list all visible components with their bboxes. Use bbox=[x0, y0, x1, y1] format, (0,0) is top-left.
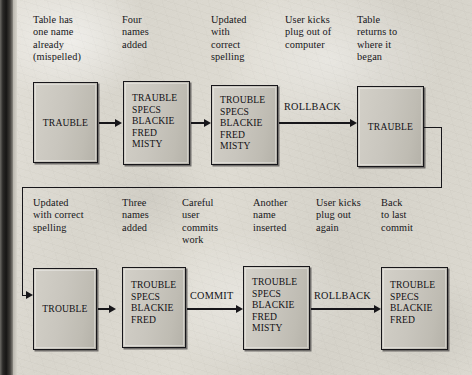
caption-bottom-4: Another name inserted bbox=[253, 197, 315, 234]
table-box-bottom-3: TROUBLE SPECS BLACKIE FRED MISTY bbox=[243, 266, 310, 350]
loopback-segment-down-right bbox=[441, 127, 442, 188]
arrow-top-3-shaft bbox=[279, 122, 351, 124]
loopback-arrow-head bbox=[26, 291, 33, 299]
caption-top-1: Table has one name already (mispelled) bbox=[33, 14, 111, 64]
arrow-top-1-head bbox=[115, 119, 122, 127]
caption-top-4: User kicks plug out of computer bbox=[285, 14, 355, 51]
operation-label-bottom-commit: COMMIT bbox=[190, 290, 233, 301]
caption-bottom-6: Back to last commit bbox=[381, 197, 443, 234]
operation-label-bottom-rollback: ROLLBACK bbox=[314, 290, 371, 301]
caption-bottom-2: Three names added bbox=[122, 197, 184, 234]
table-box-bottom-1: TROUBLE bbox=[33, 268, 97, 350]
table-box-bottom-4-text: TROUBLE SPECS BLACKIE FRED bbox=[390, 279, 443, 325]
table-box-top-4: TRAUBLE bbox=[357, 86, 424, 167]
arrow-top-3-head bbox=[350, 119, 357, 127]
loopback-segment-down-left bbox=[22, 187, 23, 296]
page-edge bbox=[13, 0, 17, 375]
arrow-top-2-head bbox=[204, 119, 211, 127]
caption-top-2: Four names added bbox=[122, 14, 194, 51]
table-box-top-2-text: TRAUBLE SPECS BLACKIE FRED MISTY bbox=[132, 92, 185, 150]
arrow-top-1-shaft bbox=[99, 122, 116, 124]
caption-top-5: Table returns to where it began bbox=[357, 14, 427, 64]
caption-bottom-3: Careful user commits work bbox=[182, 197, 244, 247]
table-box-top-1: TRAUBLE bbox=[33, 82, 98, 163]
book-gutter-shadow bbox=[0, 0, 13, 375]
arrow-bottom-1-head bbox=[109, 305, 116, 313]
operation-label-top-rollback: ROLLBACK bbox=[284, 101, 341, 112]
table-box-bottom-1-text: TROUBLE bbox=[34, 303, 96, 315]
figure-page: Table has one name already (mispelled) F… bbox=[0, 0, 472, 375]
arrow-bottom-2-head bbox=[236, 305, 243, 313]
arrow-bottom-2-shaft bbox=[187, 308, 237, 310]
table-box-top-1-text: TRAUBLE bbox=[34, 117, 97, 129]
table-box-top-3: TROUBLE SPECS BLACKIE FRED MISTY bbox=[211, 85, 278, 165]
caption-bottom-1: Updated with correct spelling bbox=[33, 197, 115, 234]
arrow-bottom-3-head bbox=[374, 305, 381, 313]
table-box-bottom-2-text: TROUBLE SPECS BLACKIE FRED bbox=[131, 279, 181, 325]
table-box-top-3-text: TROUBLE SPECS BLACKIE FRED MISTY bbox=[220, 94, 273, 152]
table-box-top-4-text: TRAUBLE bbox=[358, 121, 423, 133]
caption-bottom-5: User kicks plug out again bbox=[316, 197, 382, 234]
table-box-top-2: TRAUBLE SPECS BLACKIE FRED MISTY bbox=[123, 81, 190, 165]
caption-top-3: Updated with correct spelling bbox=[211, 14, 277, 64]
arrow-bottom-3-shaft bbox=[311, 308, 375, 310]
table-box-bottom-2: TROUBLE SPECS BLACKIE FRED bbox=[122, 267, 186, 348]
arrow-top-2-shaft bbox=[191, 122, 205, 124]
loopback-segment-right bbox=[424, 127, 442, 128]
loopback-segment-bottom bbox=[22, 187, 441, 188]
table-box-bottom-4: TROUBLE SPECS BLACKIE FRED bbox=[381, 267, 448, 350]
table-box-bottom-3-text: TROUBLE SPECS BLACKIE FRED MISTY bbox=[252, 276, 305, 334]
